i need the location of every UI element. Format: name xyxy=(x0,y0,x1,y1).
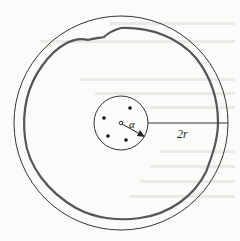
concentric-circles-diagram: α 2r xyxy=(0,0,240,241)
particle-dots xyxy=(102,106,132,142)
particle-dot xyxy=(124,138,128,142)
center-point xyxy=(119,121,123,125)
label-alpha: α xyxy=(129,118,135,130)
label-2r: 2r xyxy=(177,127,188,141)
particle-dot xyxy=(106,134,110,138)
particle-dot xyxy=(128,106,132,110)
particle-dot xyxy=(102,116,106,120)
